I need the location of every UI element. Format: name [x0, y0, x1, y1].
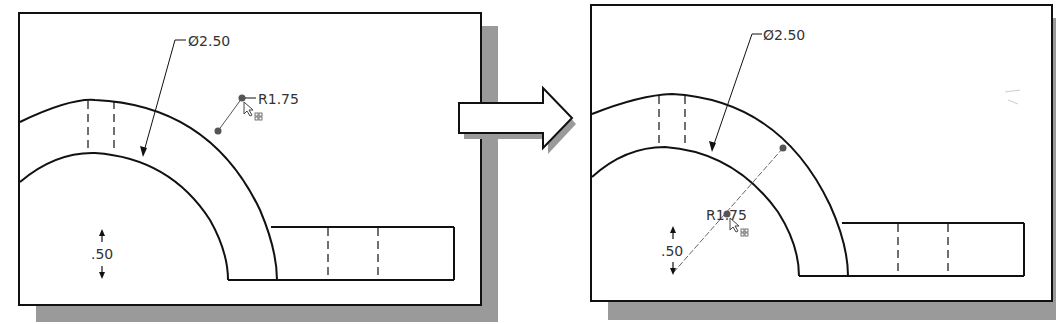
- after-radius-label[interactable]: R1.75: [706, 207, 747, 223]
- before-sketch: [20, 40, 454, 280]
- inner-arc: [20, 153, 228, 280]
- faint-artifact: [1005, 90, 1020, 104]
- before-radius-label[interactable]: R1.75: [258, 91, 299, 107]
- after-diameter-label[interactable]: Ø2.50: [763, 27, 805, 43]
- inner-arc: [592, 147, 799, 276]
- after-thickness-label[interactable]: .50: [661, 243, 683, 259]
- drawing-canvas: Ø2.50 R1.75 .50 Ø2.50 R: [0, 0, 1058, 324]
- outer-arc: [592, 94, 848, 276]
- after-sketch: [592, 34, 1024, 276]
- before-diameter-label[interactable]: Ø2.50: [188, 33, 230, 49]
- before-thickness-label[interactable]: .50: [91, 246, 113, 262]
- outer-arc: [20, 100, 277, 280]
- transition-arrow-icon: [459, 88, 576, 154]
